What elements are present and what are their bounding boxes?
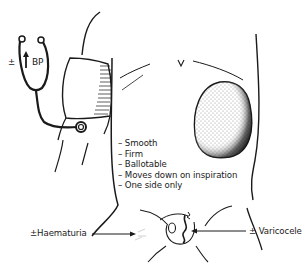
- up-arrow-icon: [23, 51, 29, 68]
- haematuria-label: ±Haematuria: [30, 229, 87, 238]
- varicocele-label: ± Varicocele: [249, 227, 302, 236]
- feature-item: Smooth: [118, 138, 237, 149]
- bp-label: BP: [32, 58, 43, 67]
- bp-plus-minus-label: ±: [8, 58, 15, 67]
- feature-item: Moves down on inspiration: [118, 170, 237, 181]
- feature-item: One side only: [118, 180, 237, 191]
- feature-item: Firm: [118, 149, 237, 160]
- renal-mass-illustration: ± BP Smooth Firm Ballotable Moves down o…: [0, 0, 307, 276]
- feature-item: Ballotable: [118, 159, 237, 170]
- scrotum-varicocele: [160, 212, 195, 244]
- mass-features-list: Smooth Firm Ballotable Moves down on ins…: [118, 138, 237, 191]
